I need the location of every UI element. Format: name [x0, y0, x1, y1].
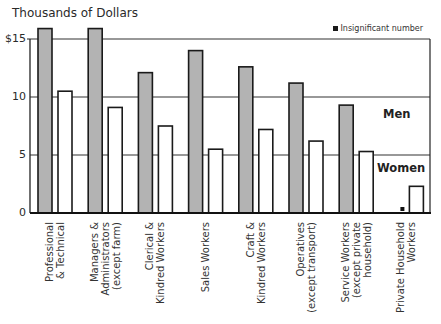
series-label-men: Men	[383, 107, 410, 121]
bar-men	[88, 29, 102, 213]
y-tick-label: $15	[0, 32, 26, 45]
bar-women	[58, 91, 72, 213]
x-category-label: Service Workers(except privatehousehold)	[340, 222, 373, 318]
bar-men	[239, 67, 253, 213]
x-category-label: Private HouseholdWorkers	[395, 222, 417, 318]
bar-women	[309, 141, 323, 213]
bar-women	[359, 152, 373, 213]
plot-area	[0, 0, 441, 324]
x-category-label: Sales Workers	[200, 222, 211, 318]
x-category-label: Professional& Technical	[44, 222, 66, 318]
bar-women	[108, 107, 122, 213]
bar-women	[259, 129, 273, 213]
series-label-women: Women	[377, 161, 425, 175]
bar-men	[138, 73, 152, 213]
bar-women	[209, 149, 223, 213]
bar-women	[409, 186, 423, 213]
earnings-bar-chart: Thousands of Dollars Insignificant numbe…	[0, 0, 441, 324]
x-category-label: Operatives(except transport)	[295, 222, 317, 318]
bar-men	[38, 29, 52, 213]
bar-men	[289, 83, 303, 213]
insignificant-marker-icon	[400, 207, 404, 211]
bar-women	[158, 126, 172, 213]
x-category-label: Craft &Kindred Workers	[245, 222, 267, 318]
y-tick-label: 0	[0, 206, 26, 219]
bar-men	[339, 105, 353, 213]
x-category-label: Clerical &Kindred Workers	[144, 222, 166, 318]
bar-men	[189, 51, 203, 213]
y-tick-label: 10	[0, 90, 26, 103]
y-tick-label: 5	[0, 148, 26, 161]
x-category-label: Managers &Administrators(except farm)	[89, 222, 122, 318]
